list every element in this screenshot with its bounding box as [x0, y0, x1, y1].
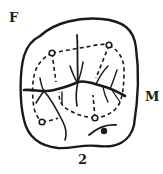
tooth-diagram	[0, 0, 163, 174]
pit-mark	[89, 125, 116, 135]
tooth-outline	[21, 19, 138, 149]
